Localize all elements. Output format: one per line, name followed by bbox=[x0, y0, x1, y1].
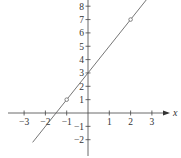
y-tick-label: 6 bbox=[79, 28, 84, 38]
x-tick-label: 2 bbox=[128, 117, 133, 127]
y-tick-label: −2 bbox=[74, 135, 84, 145]
open-point-marker bbox=[65, 98, 69, 102]
y-tick-label: −1 bbox=[74, 122, 84, 132]
y-tick-label: 8 bbox=[79, 2, 84, 12]
y-tick-label: 5 bbox=[79, 42, 84, 52]
x-axis-arrow-icon bbox=[163, 111, 170, 116]
y-tick-label: 7 bbox=[79, 15, 84, 25]
x-tick-label: 3 bbox=[150, 117, 155, 127]
x-axis-label: x bbox=[172, 107, 178, 118]
x-tick-label: −1 bbox=[62, 117, 72, 127]
y-tick-label: 1 bbox=[79, 95, 84, 105]
y-tick-label: 4 bbox=[79, 55, 84, 65]
open-point-marker bbox=[129, 18, 133, 22]
y-tick-label: 3 bbox=[79, 68, 84, 78]
x-tick-label: −3 bbox=[19, 117, 29, 127]
line-graph: x −3−2−1123 −2−112345678 bbox=[0, 0, 181, 158]
x-tick-label: 1 bbox=[107, 117, 112, 127]
